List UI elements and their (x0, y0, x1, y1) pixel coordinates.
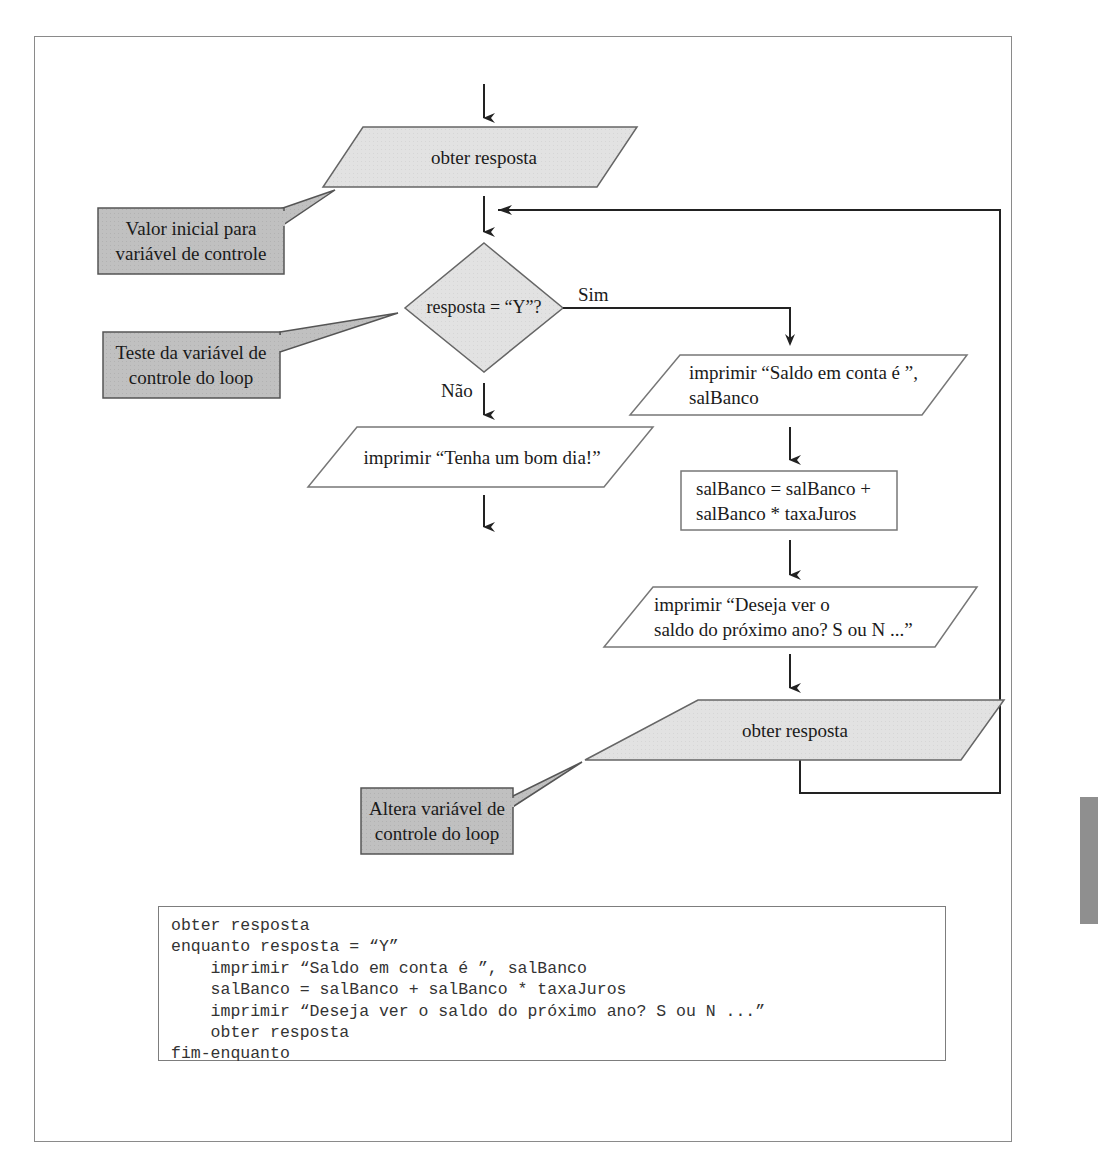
pseudocode-line: imprimir “Deseja ver o saldo do próximo … (171, 1001, 945, 1022)
branch-yes-label: Sim (578, 282, 609, 307)
pseudocode-line: obter resposta (171, 1022, 945, 1043)
callout-1-line1: Valor inicial para (126, 216, 257, 241)
pseudocode-box: obter resposta enquanto resposta = “Y” i… (158, 906, 946, 1061)
pseudocode-line: salBanco = salBanco + salBanco * taxaJur… (171, 979, 945, 1000)
yes-output-2-line1: imprimir “Deseja ver o (654, 592, 830, 617)
yes-branch-connector (563, 308, 795, 346)
callout-2-line1: Teste da variável de (115, 340, 266, 365)
pseudocode-line: fim-enquanto (171, 1043, 945, 1064)
process-line1: salBanco = salBanco + (696, 476, 871, 501)
callout-3-line1: Altera variável de (369, 796, 505, 821)
yes-output-1-line1: imprimir “Saldo em conta é ”, (689, 360, 918, 385)
process-line2: salBanco * taxaJuros (696, 501, 856, 526)
callout-1-line2: variável de controle (116, 241, 267, 266)
page-edge-tab (1080, 797, 1098, 924)
decision-label: resposta = “Y”? (426, 295, 541, 320)
pseudocode-line: imprimir “Saldo em conta é ”, salBanco (171, 958, 945, 979)
loop-input-label: obter resposta (742, 718, 848, 743)
pseudocode-line: enquanto resposta = “Y” (171, 936, 945, 957)
yes-output-2-line2: saldo do próximo ano? S ou N ...” (654, 617, 913, 642)
callout-2-line2: controle do loop (129, 365, 254, 390)
yes-output-1-line2: salBanco (689, 385, 759, 410)
start-input-label: obter resposta (431, 145, 537, 170)
no-output-label: imprimir “Tenha um bom dia!” (363, 445, 600, 470)
branch-no-label: Não (441, 378, 473, 403)
callout-3-line2: controle do loop (375, 821, 500, 846)
pseudocode-line: obter resposta (171, 915, 945, 936)
